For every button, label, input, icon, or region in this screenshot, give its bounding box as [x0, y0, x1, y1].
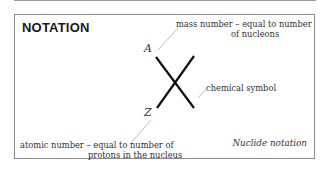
chemical-symbol-leader — [198, 89, 206, 98]
mass-number-label-line1: mass number – equal to number — [176, 19, 312, 29]
atomic-number-label-line1: atomic number – equal to number of — [20, 140, 173, 150]
chemical-symbol-label: chemical symbol — [206, 83, 276, 93]
atomic-number-symbol: Z — [144, 106, 152, 119]
mass-number-label-line2: of nucleons — [231, 29, 279, 39]
mass-number-leader — [158, 28, 178, 50]
atomic-number-label-line2: protons in the nucleus — [88, 150, 182, 160]
figure-caption: Nuclide notation — [232, 138, 307, 148]
mass-number-symbol: A — [144, 42, 152, 55]
